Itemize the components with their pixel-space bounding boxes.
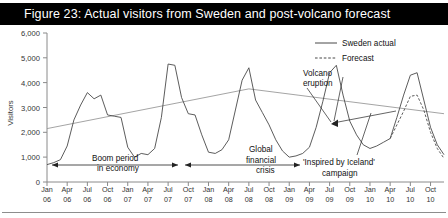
annotation-boom-period: Boom period in economy — [52, 154, 178, 173]
y-tick-label-4000: 4,000 — [21, 79, 40, 88]
x-axis-labels: Jan06Apr06Jul06Oct06Jan07Apr07Jul07Oct07… — [0, 185, 448, 211]
boom-period-label-line1: Boom period — [92, 154, 139, 163]
gfc-label-line3: crisis — [256, 166, 275, 175]
legend-label-forecast: Forecast — [342, 54, 375, 63]
series-sweden-actual — [47, 64, 444, 165]
boom-period-label-line2: in economy — [97, 164, 140, 173]
annotation-global-financial-crisis: Global financial crisis — [185, 145, 300, 175]
volcano-leader-line-horizontal — [333, 111, 396, 123]
y-tick-marks — [43, 33, 47, 182]
volcano-leader-line-right — [334, 77, 343, 121]
gfc-arrow-left — [185, 163, 191, 168]
y-axis-title: Visitors — [6, 100, 15, 126]
x-tick-label: Oct10 — [418, 185, 444, 204]
y-tick-label-1000: 1,000 — [21, 153, 40, 162]
bottom-divider — [2, 212, 446, 213]
boom-period-arrow-right — [172, 163, 178, 168]
x-tick-month: Oct — [418, 185, 444, 195]
figure-title: Figure 23: Actual visitors from Sweden a… — [24, 7, 390, 21]
chart-plot-area: 6,000 5,000 4,000 3,000 2,000 1,000 0 Vi… — [0, 25, 448, 193]
gfc-arrow-right — [294, 163, 300, 168]
iceland-label-line2: campaign — [322, 169, 358, 178]
y-tick-label-6000: 6,000 — [21, 29, 40, 38]
y-tick-label-3000: 3,000 — [21, 104, 40, 113]
x-tick-year: 10 — [418, 195, 444, 205]
title-banner: Figure 23: Actual visitors from Sweden a… — [0, 3, 448, 25]
chart-svg: 6,000 5,000 4,000 3,000 2,000 1,000 0 Vi… — [0, 25, 448, 193]
trend-line — [47, 89, 444, 129]
y-tick-label-2000: 2,000 — [21, 128, 40, 137]
volcano-label-line2: eruption — [303, 79, 333, 88]
gfc-label-line1: Global — [249, 145, 273, 154]
legend-label-sweden-actual: Sweden actual — [342, 39, 396, 48]
iceland-leader-line — [357, 113, 371, 155]
volcano-arrow-head — [331, 120, 338, 128]
volcano-label-line1: Volcano — [303, 69, 333, 78]
y-tick-label-5000: 5,000 — [21, 54, 40, 63]
gfc-label-line2: financial — [246, 156, 276, 165]
series-forecast — [390, 95, 444, 158]
chart-legend: Sweden actual Forecast — [315, 39, 396, 63]
figure-container: Figure 23: Actual visitors from Sweden a… — [0, 0, 448, 218]
iceland-label-line1: 'Inspired by Iceland' — [303, 158, 375, 167]
